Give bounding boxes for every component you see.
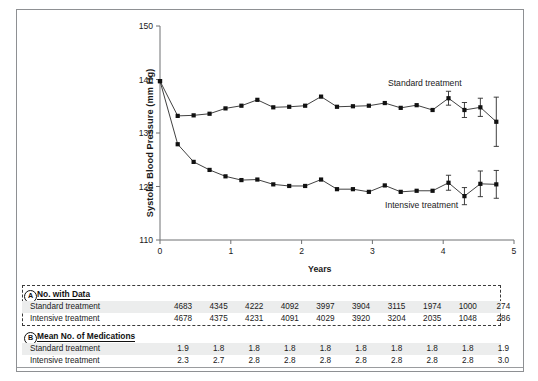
table-cell: 1974 [415, 302, 449, 311]
table-cell: 3115 [380, 302, 414, 311]
chart-svg: 110120130140150012345 [0, 0, 538, 290]
table-cell: 2.8 [344, 356, 378, 365]
data-point-marker [207, 168, 211, 172]
data-point-marker [255, 98, 259, 102]
y-tick-label: 110 [139, 235, 153, 245]
table-row: Intensive treatment467843754231409140293… [22, 313, 501, 325]
table-cell: 3204 [380, 314, 414, 323]
data-point-marker [176, 114, 180, 118]
x-tick-label: 5 [512, 246, 517, 256]
table-cell: 3904 [344, 302, 378, 311]
data-point-marker [319, 95, 323, 99]
data-point-marker [207, 112, 211, 116]
chart-series-layer [158, 79, 499, 205]
data-point-marker [367, 190, 371, 194]
table-cell: 4231 [237, 314, 271, 323]
data-point-marker [287, 105, 291, 109]
data-point-marker [415, 103, 419, 107]
data-point-marker [478, 182, 482, 186]
table-cell: 1.8 [237, 344, 271, 353]
data-point-marker [192, 113, 196, 117]
table-cell: 1.8 [415, 344, 449, 353]
footer-divider [17, 367, 523, 368]
data-point-marker [303, 104, 307, 108]
table-cell: 4683 [166, 302, 200, 311]
data-point-marker [494, 120, 498, 124]
data-point-marker [271, 182, 275, 186]
data-point-marker [399, 106, 403, 110]
panel-title-a: No. with Data [37, 289, 90, 300]
data-point-marker [446, 96, 450, 100]
data-point-marker [430, 108, 434, 112]
data-point-marker [367, 104, 371, 108]
data-point-marker [430, 189, 434, 193]
data-point-marker [335, 105, 339, 109]
table-cell: 4345 [202, 302, 236, 311]
data-point-marker [494, 182, 498, 186]
x-axis-title: Years [308, 264, 331, 274]
table-cell: 2.7 [202, 356, 236, 365]
data-point-marker [223, 106, 227, 110]
table-cell: 2.8 [380, 356, 414, 365]
x-tick-label: 1 [228, 246, 233, 256]
data-point-marker [351, 187, 355, 191]
panel-title-b: Mean No. of Medications [37, 331, 135, 342]
chart-axes: 110120130140150012345 [139, 21, 517, 256]
table-cell: 2.8 [451, 356, 485, 365]
data-point-marker [351, 104, 355, 108]
table-cell: 4222 [237, 302, 271, 311]
x-tick-label: 0 [158, 246, 163, 256]
data-point-marker [335, 187, 339, 191]
table-cell: 1.9 [486, 344, 520, 353]
x-tick-label: 4 [441, 246, 446, 256]
series-label-standard: Standard treatment [388, 78, 462, 88]
table-cell: 1.9 [166, 344, 200, 353]
data-point-marker [303, 184, 307, 188]
data-point-marker [158, 79, 162, 83]
y-tick-label: 150 [139, 21, 154, 31]
table-cell: 3.0 [486, 356, 520, 365]
table-cell: 286 [486, 314, 520, 323]
series-label-intensive: Intensive treatment [385, 200, 458, 210]
table-cell: 2.3 [166, 356, 200, 365]
data-point-marker [462, 108, 466, 112]
y-axis-title: Systolic Blood Pressure (mm Hg) [145, 63, 155, 223]
row-label: Standard treatment [30, 302, 100, 311]
data-point-marker [415, 189, 419, 193]
table-cell: 274 [486, 302, 520, 311]
data-point-marker [239, 178, 243, 182]
data-point-marker [319, 177, 323, 181]
table-cell: 4092 [273, 302, 307, 311]
data-point-marker [255, 177, 259, 181]
data-point-marker [287, 184, 291, 188]
table-cell: 4091 [273, 314, 307, 323]
row-label: Standard treatment [30, 344, 100, 353]
table-cell: 3997 [308, 302, 342, 311]
table-cell: 2.8 [308, 356, 342, 365]
table-cell: 4029 [308, 314, 342, 323]
table-cell: 1.8 [451, 344, 485, 353]
data-point-marker [383, 101, 387, 105]
data-point-marker [478, 105, 482, 109]
table-cell: 1.8 [273, 344, 307, 353]
data-point-marker [383, 183, 387, 187]
data-point-marker [239, 104, 243, 108]
series-line [160, 81, 496, 196]
x-tick-label: 3 [370, 246, 375, 256]
table-cell: 1.8 [344, 344, 378, 353]
table-cell: 1048 [451, 314, 485, 323]
data-point-marker [446, 181, 450, 185]
table-cell: 2035 [415, 314, 449, 323]
table-cell: 2.8 [415, 356, 449, 365]
table-row: Standard treatment1.91.81.81.81.81.81.81… [22, 343, 501, 355]
data-point-marker [223, 174, 227, 178]
data-point-marker [192, 160, 196, 164]
table-cell: 1000 [451, 302, 485, 311]
data-point-marker [271, 105, 275, 109]
table-cell: 2.8 [273, 356, 307, 365]
table-cell: 4375 [202, 314, 236, 323]
row-label: Intensive treatment [30, 314, 100, 323]
x-tick-label: 2 [299, 246, 304, 256]
table-row: Intensive treatment2.32.72.82.82.82.82.8… [22, 355, 501, 367]
figure-root: 110120130140150012345 Systolic Blood Pre… [0, 0, 538, 381]
